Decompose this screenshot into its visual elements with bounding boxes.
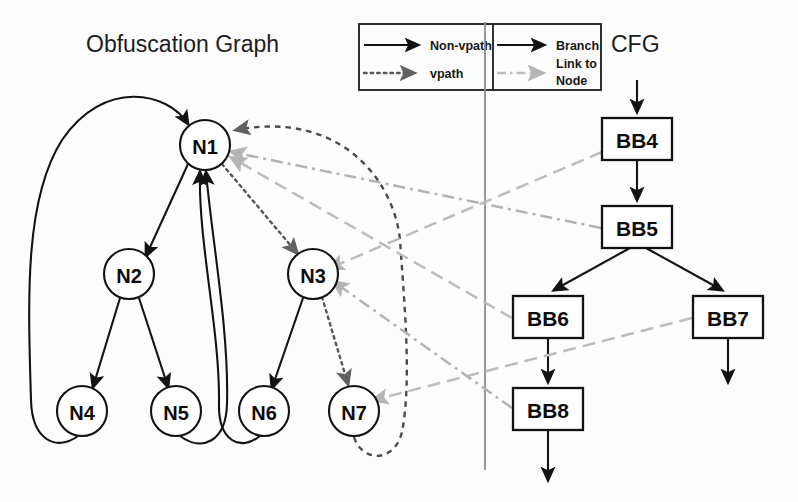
edge-bb5-bb7 [646, 248, 722, 290]
node-label: N1 [192, 136, 218, 158]
block-bb8[interactable]: BB8 [513, 388, 583, 430]
legend-label-non-vpath: Non-vpath [430, 39, 492, 53]
edge-bb5-bb6 [554, 248, 630, 290]
block-label: BB5 [616, 217, 658, 240]
block-bb4[interactable]: BB4 [602, 118, 672, 160]
diagram-canvas: Obfuscation Graph CFG Non-vpath vpath Br… [0, 0, 798, 502]
edge-n2-n5 [139, 298, 168, 387]
edge-n1-n2 [146, 164, 188, 256]
legend-label-link-to-node-line1: Link to [556, 57, 597, 71]
diagram-svg: Obfuscation Graph CFG Non-vpath vpath Br… [0, 0, 798, 502]
page-title-right: CFG [611, 31, 660, 57]
block-bb5[interactable]: BB5 [602, 206, 672, 248]
block-bb7[interactable]: BB7 [693, 296, 763, 338]
node-label: N2 [116, 265, 142, 287]
node-label: N5 [163, 402, 189, 424]
node-label: N7 [341, 402, 367, 424]
block-bb6[interactable]: BB6 [513, 296, 583, 338]
edge-n3-n7-vpath [322, 297, 348, 384]
node-n7[interactable]: N7 [329, 386, 379, 436]
block-label: BB8 [527, 399, 569, 422]
page-title-left: Obfuscation Graph [86, 31, 279, 57]
node-n2[interactable]: N2 [104, 249, 154, 299]
node-label: N6 [251, 402, 277, 424]
block-label: BB7 [707, 307, 749, 330]
edge-n1-n3-vpath [222, 164, 297, 253]
block-label: BB4 [616, 129, 658, 152]
link-bb5-n1 [232, 152, 601, 228]
legend-label-link-to-node-line2: Node [556, 74, 587, 88]
edge-n3-n6 [272, 298, 303, 388]
block-label: BB6 [527, 307, 569, 330]
node-label: N4 [69, 402, 95, 424]
node-n5[interactable]: N5 [151, 386, 201, 436]
legend-label-branch: Branch [556, 39, 599, 53]
node-n1[interactable]: N1 [180, 120, 230, 170]
node-n3[interactable]: N3 [288, 249, 338, 299]
node-label: N3 [300, 265, 326, 287]
node-n6[interactable]: N6 [239, 386, 289, 436]
edge-n2-n4 [93, 298, 120, 387]
legend-label-vpath: vpath [430, 67, 463, 81]
node-n4[interactable]: N4 [57, 386, 107, 436]
legend: Non-vpath vpath Branch Link to Node [359, 24, 601, 90]
